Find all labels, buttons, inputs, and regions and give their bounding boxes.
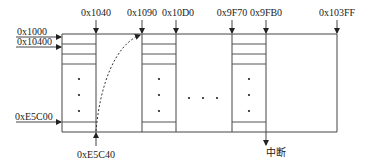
- label-interrupt: 中断: [266, 146, 286, 158]
- memory-layout-diagram: 0x1040 0x1090 0x10D0 0x9F70 0x9FB0 0x103…: [0, 0, 375, 168]
- top-address-arrows: [96, 20, 337, 33]
- memory-block-3: [232, 34, 266, 132]
- label-0xe5c00: 0xE5C00: [15, 111, 53, 122]
- left-address-arrows: [16, 37, 61, 122]
- label-0x1040: 0x1040: [81, 7, 111, 18]
- memory-block-2: [142, 34, 176, 132]
- label-0xe5c40: 0xE5C40: [77, 149, 115, 160]
- memory-block-1: [62, 34, 96, 132]
- jump-arrow-dashed: [96, 35, 140, 131]
- bottom-arrows: [96, 132, 266, 146]
- label-0x9fb0: 0x9FB0: [250, 7, 282, 18]
- label-0x10d0: 0x10D0: [162, 7, 194, 18]
- label-0x103ff: 0x103FF: [319, 7, 356, 18]
- label-0x1090: 0x1090: [127, 7, 157, 18]
- label-0x10400: 0x10400: [17, 36, 52, 47]
- ellipsis-dots: [188, 97, 218, 99]
- label-0x9f70: 0x9F70: [217, 7, 248, 18]
- memory-region-frame: [62, 34, 337, 132]
